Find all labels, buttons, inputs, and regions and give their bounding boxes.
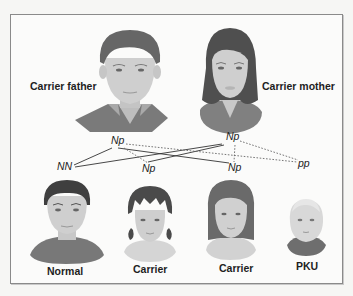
offspring-label-carrier-1: Carrier: [133, 263, 167, 275]
offspring-label-carrier-2: Carrier: [219, 262, 253, 274]
mother-figure: [200, 28, 262, 134]
offspring-label-pku: PKU: [296, 260, 318, 272]
father-label: Carrier father: [30, 80, 97, 92]
child-normal-figure: [30, 180, 104, 264]
child-carrier-2-figure: [206, 180, 256, 260]
mother-label: Carrier mother: [262, 80, 335, 92]
child-carrier-1-figure: [124, 186, 176, 262]
inheritance-diagram: [0, 0, 353, 296]
offspring-genotype-pp: pp: [298, 157, 310, 169]
offspring-genotype-np-2: Np: [228, 161, 241, 173]
offspring-genotype-np-1: Np: [142, 162, 155, 174]
offspring-label-normal: Normal: [47, 265, 83, 277]
mother-genotype: Np: [226, 130, 239, 142]
father-genotype: Np: [111, 134, 124, 146]
offspring-genotype-nn: NN: [57, 160, 72, 172]
child-pku-figure: [287, 199, 326, 256]
